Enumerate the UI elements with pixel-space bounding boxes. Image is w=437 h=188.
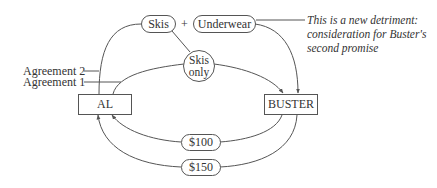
skis-only-label-line-1: Skis (189, 54, 209, 66)
skis-to-skis-only-line (172, 31, 190, 52)
payment-100-node: $100 (181, 134, 221, 151)
annotation-note: This is a new detriment: consideration f… (307, 13, 426, 55)
payment-100-arrow-to-al (112, 115, 181, 142)
buster-box: BUSTER (264, 94, 318, 115)
payment-100-path-buster (220, 115, 282, 142)
agreement-1-path-al-to-skis-only (113, 64, 184, 94)
annotation-line-3: second promise (307, 41, 426, 55)
payment-150-label: $150 (189, 160, 213, 175)
agreement-1-label: Agreement 1 (23, 75, 85, 89)
al-box: AL (78, 94, 132, 115)
underwear-node: Underwear (193, 15, 256, 33)
skis-label: Skis (148, 17, 169, 32)
plus-sign: + (181, 17, 188, 31)
annotation-line-2: consideration for Buster's (307, 27, 426, 41)
skis-only-node: Skis only (183, 50, 215, 82)
skis-only-label-line-2: only (189, 66, 209, 78)
buster-label: BUSTER (268, 97, 314, 112)
underwear-to-buster-arrow (255, 24, 298, 93)
skis-only-to-buster-arrow (214, 64, 283, 93)
payment-150-node: $150 (181, 159, 221, 176)
payment-100-label: $100 (189, 135, 213, 150)
annotation-line-1: This is a new detriment: (307, 13, 426, 27)
underwear-label: Underwear (198, 17, 251, 32)
al-label: AL (97, 97, 113, 112)
skis-node: Skis (141, 15, 176, 33)
